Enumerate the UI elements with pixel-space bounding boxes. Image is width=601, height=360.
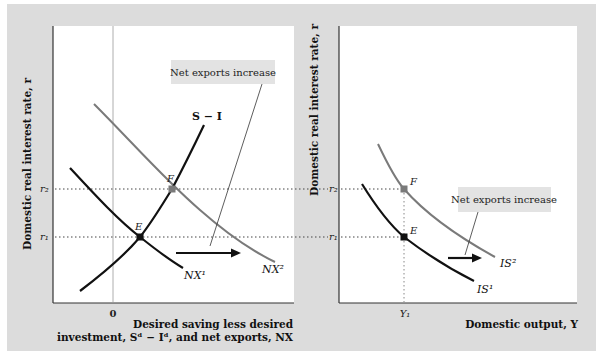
point-e-right [401, 234, 408, 241]
is2-label: IS² [499, 257, 516, 270]
right-r1-tick: r₁ [329, 231, 338, 242]
right-y-axis-title: Domestic real interest rate, r [308, 24, 320, 196]
right-chart: E F IS² IS¹ Net exports increase r₂ r₁ Y… [308, 24, 578, 330]
right-plot-area [339, 26, 577, 303]
is1-label: IS¹ [476, 283, 493, 296]
point-f-left [169, 186, 176, 193]
right-r2-tick: r₂ [329, 183, 338, 194]
left-x-axis-title-line2: investment, Sᵈ − Iᵈ, and net exports, NX [57, 331, 294, 343]
left-y-axis-title: Domestic real interest rate, r [21, 78, 33, 250]
figure: E F S − I NX¹ NX² Net exports increase r… [0, 0, 601, 360]
left-chart: E F S − I NX¹ NX² Net exports increase r… [21, 26, 328, 343]
left-r1-tick: r₁ [40, 231, 49, 242]
left-x-axis-title-line1: Desired saving less desired [133, 318, 294, 330]
point-e-left-label: E [134, 221, 143, 232]
point-f-left-label: F [166, 173, 175, 184]
y1-tick: Y₁ [400, 308, 411, 319]
point-e-left [137, 234, 144, 241]
zero-tick: 0 [110, 308, 117, 319]
point-e-right-label: E [409, 225, 418, 236]
callout-text-left: Net exports increase [170, 67, 276, 78]
saving-investment-label: S − I [192, 110, 222, 123]
point-f-right [401, 186, 408, 193]
nx1-label: NX¹ [183, 269, 206, 282]
right-x-axis-title: Domestic output, Y [465, 318, 578, 330]
point-f-right-label: F [409, 176, 418, 187]
nx2-label: NX² [261, 263, 284, 276]
callout-text-right: Net exports increase [451, 194, 557, 205]
left-r2-tick: r₂ [40, 183, 49, 194]
